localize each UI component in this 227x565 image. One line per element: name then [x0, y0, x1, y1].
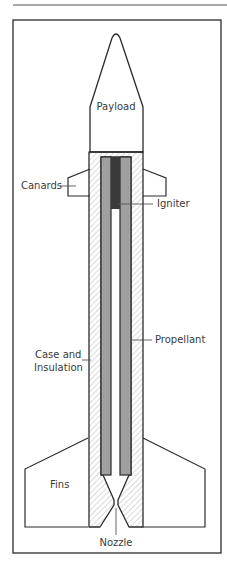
rocket-diagram: Payload Canards Igniter Propellant Case …: [0, 0, 227, 565]
label-propellant: Propellant: [155, 334, 205, 345]
igniter: [111, 157, 120, 209]
label-fins: Fins: [50, 479, 69, 490]
label-canards: Canards: [21, 180, 62, 191]
label-case-line1: Case and: [35, 349, 81, 360]
label-payload: Payload: [97, 101, 136, 112]
label-igniter: Igniter: [157, 198, 190, 209]
canard-left: [68, 169, 90, 196]
canard-right: [143, 169, 166, 196]
label-case-line2: Insulation: [34, 362, 83, 373]
nose-cone: [90, 34, 143, 152]
propellant-left: [101, 157, 111, 475]
propellant-right: [120, 157, 131, 475]
fin-right: [143, 438, 205, 527]
label-nozzle: Nozzle: [99, 537, 132, 548]
